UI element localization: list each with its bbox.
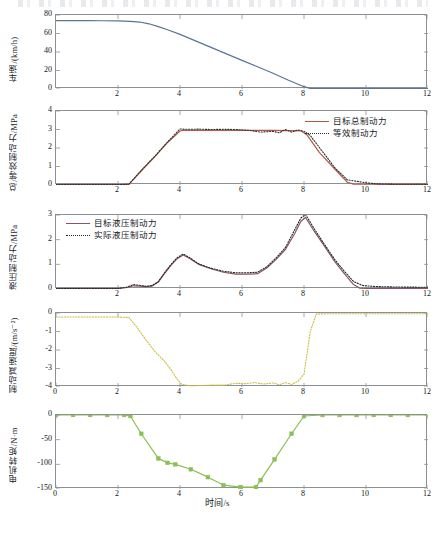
x-tick-label: 12 <box>418 90 435 98</box>
x-tick-label: 4 <box>170 490 188 498</box>
x-tick-label: 6 <box>232 290 250 298</box>
panel-hydraulic-braking-legend: 目标液压制动力 实际液压制动力 <box>66 218 157 241</box>
legend-item-target-hydraulic: 目标液压制动力 <box>66 218 157 230</box>
legend-item-equivalent: 等效制动力 <box>305 128 387 140</box>
y-tick-label: 20 <box>16 66 52 74</box>
y-tick-label: 60 <box>16 29 52 37</box>
scan-artifact-text-line <box>18 0 428 7</box>
panel-motor-torque: 电机转矩/N·m 时间/s <box>0 412 435 522</box>
legend-item-target-total: 目标总制动力 <box>305 116 387 128</box>
y-tick-label: 0 <box>16 308 52 316</box>
x-tick-label: 6 <box>232 186 250 194</box>
y-tick-label: -2 <box>16 345 52 353</box>
x-tick-label: 8 <box>294 186 312 194</box>
x-tick-label: 2 <box>108 90 126 98</box>
panel-speed-plot <box>55 14 427 88</box>
x-tick-label: 2 <box>108 388 126 396</box>
y-tick-label: 3 <box>16 210 52 218</box>
x-tick-label: 2 <box>108 186 126 194</box>
y-tick-label: 2 <box>16 143 52 151</box>
x-tick-label: 0 <box>46 388 64 396</box>
legend-swatch-dotted-icon <box>66 232 90 239</box>
legend-swatch-solid-icon <box>305 118 329 125</box>
x-tick-label: 2 <box>108 290 126 298</box>
y-tick-label: 4 <box>16 106 52 114</box>
y-tick-label: -3 <box>16 364 52 372</box>
legend-swatch-dotted-icon <box>305 130 329 137</box>
legend-label-actual-hydraulic: 实际液压制动力 <box>94 230 157 242</box>
panel-motor-torque-plot <box>55 414 427 488</box>
x-tick-label: 12 <box>418 388 435 396</box>
x-tick-label: 4 <box>170 388 188 396</box>
legend-label-equivalent: 等效制动力 <box>333 128 378 140</box>
y-tick-label: 0 <box>16 180 52 188</box>
panel-total-braking-legend: 目标总制动力 等效制动力 <box>305 116 387 139</box>
x-tick-label: 6 <box>232 490 250 498</box>
legend-swatch-solid-icon <box>66 220 90 227</box>
x-tick-label: 10 <box>356 290 374 298</box>
y-tick-label: 0 <box>16 284 52 292</box>
x-tick-label: 8 <box>294 388 312 396</box>
y-tick-label: 1 <box>16 259 52 267</box>
x-tick-label: 12 <box>418 186 435 194</box>
x-tick-label: 0 <box>46 490 64 498</box>
legend-item-actual-hydraulic: 实际液压制动力 <box>66 230 157 242</box>
y-tick-label: -50 <box>16 435 52 443</box>
y-tick-label: 0 <box>16 84 52 92</box>
x-tick-label: 8 <box>294 90 312 98</box>
x-tick-label: 8 <box>294 290 312 298</box>
x-tick-label: 10 <box>356 490 374 498</box>
x-tick-label: 4 <box>170 186 188 194</box>
y-tick-label: -1 <box>16 327 52 335</box>
y-tick-label: 40 <box>16 47 52 55</box>
x-tick-label: 10 <box>356 90 374 98</box>
y-tick-label: 2 <box>16 235 52 243</box>
x-tick-label: 8 <box>294 490 312 498</box>
x-tick-label: 6 <box>232 388 250 396</box>
x-tick-label: 10 <box>356 186 374 194</box>
x-tick-label: 12 <box>418 290 435 298</box>
panel-motor-torque-ylabel: 电机转矩/N·m <box>8 418 19 492</box>
x-tick-label: 4 <box>170 290 188 298</box>
legend-label-target-hydraulic: 目标液压制动力 <box>94 218 157 230</box>
y-tick-label: -100 <box>16 459 52 467</box>
x-tick-label: 12 <box>418 490 435 498</box>
panel-deceleration-plot <box>55 312 427 386</box>
x-tick-label: 4 <box>170 90 188 98</box>
y-tick-label: 3 <box>16 125 52 133</box>
x-tick-label: 6 <box>232 90 250 98</box>
y-tick-label: 0 <box>16 410 52 418</box>
x-tick-label: 10 <box>356 388 374 396</box>
panel-speed-ylabel: 车速/(km/h) <box>8 28 19 90</box>
y-tick-label: 1 <box>16 162 52 170</box>
y-tick-label: 80 <box>16 10 52 18</box>
x-tick-label: 2 <box>108 490 126 498</box>
legend-label-target-total: 目标总制动力 <box>333 116 387 128</box>
figure-container: 车速/(km/h) 总/等效制动力/MPa 目标总制动力 等效制动力 液压制动力… <box>0 0 435 536</box>
